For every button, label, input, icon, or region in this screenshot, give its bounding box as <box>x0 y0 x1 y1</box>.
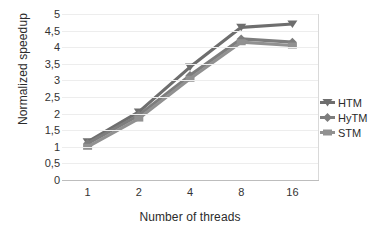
legend-symbol-icon <box>320 112 335 123</box>
legend-item-htm[interactable]: HTM <box>320 96 378 109</box>
x-tick-label: 1 <box>73 186 103 198</box>
data-point-marker <box>323 99 333 107</box>
data-point-marker <box>134 116 143 122</box>
x-tick-label: 8 <box>226 186 256 198</box>
legend-marker-icon <box>320 112 335 123</box>
gridline <box>62 31 318 32</box>
gridline <box>62 47 318 48</box>
y-tick-label: 5 <box>16 9 60 19</box>
y-tick-label: 4,5 <box>16 26 60 36</box>
y-tick-label: 1,5 <box>16 125 60 135</box>
y-tick-label: 1 <box>16 142 60 152</box>
legend-symbol-icon <box>320 97 335 108</box>
x-axis-title: Number of threads <box>60 210 320 224</box>
x-tick-label: 4 <box>175 186 205 198</box>
data-point-marker <box>323 113 332 122</box>
plot-right-border <box>318 14 319 181</box>
data-point-marker <box>323 130 332 136</box>
legend-marker-icon <box>320 97 335 108</box>
x-tick-label: 2 <box>124 186 154 198</box>
legend-item-hytm[interactable]: HyTM <box>320 111 378 124</box>
legend-marker-icon <box>320 127 335 138</box>
y-tick-label: 0 <box>16 175 60 185</box>
y-axis-tick-labels: 00,511,522,533,544,55 <box>10 0 60 236</box>
gridline <box>62 147 318 148</box>
plot-area <box>62 14 318 180</box>
gridline <box>62 114 318 115</box>
data-point-marker <box>237 39 246 45</box>
y-tick-label: 4 <box>16 42 60 52</box>
gridline <box>62 97 318 98</box>
gridline <box>62 163 318 164</box>
y-tick-label: 2 <box>16 109 60 119</box>
gridline <box>62 14 318 15</box>
y-tick-label: 2,5 <box>16 92 60 102</box>
series-line <box>88 39 293 144</box>
gridline <box>62 64 318 65</box>
x-axis-line <box>62 180 319 181</box>
legend: HTMHyTMSTM <box>320 96 378 141</box>
legend-label: HTM <box>338 97 362 109</box>
y-tick-label: 3 <box>16 75 60 85</box>
legend-label: HyTM <box>338 112 367 124</box>
legend-symbol-icon <box>320 127 335 138</box>
chart-container: Normalized speedup 00,511,522,533,544,55… <box>0 0 378 236</box>
legend-label: STM <box>338 127 361 139</box>
legend-item-stm[interactable]: STM <box>320 126 378 139</box>
x-tick-label: 16 <box>277 186 307 198</box>
y-tick-label: 3,5 <box>16 59 60 69</box>
gridline <box>62 130 318 131</box>
y-tick-label: 0,5 <box>16 158 60 168</box>
gridline <box>62 80 318 81</box>
